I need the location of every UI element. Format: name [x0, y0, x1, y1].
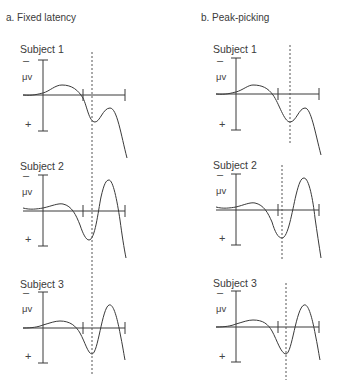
erp-waveform-diagram: [0, 0, 339, 387]
peak-picking-subject-3-axes: [216, 291, 319, 362]
fixed-latency-subject-2-axes: [23, 175, 125, 246]
peak-picking-subject-3-waveform: [216, 305, 320, 360]
fixed-latency-subject-3-axes: [23, 292, 125, 363]
peak-picking-subject-2-waveform: [216, 178, 321, 258]
fixed-latency-subject-1-waveform: [23, 85, 127, 158]
fixed-latency-subject-1-axes: [23, 60, 125, 131]
peak-picking-subject-1-waveform: [216, 85, 321, 155]
fixed-latency-subject-3-waveform: [23, 305, 125, 360]
peak-picking-subject-1-axes: [216, 58, 319, 130]
peak-picking-subject-2-axes: [216, 174, 319, 245]
